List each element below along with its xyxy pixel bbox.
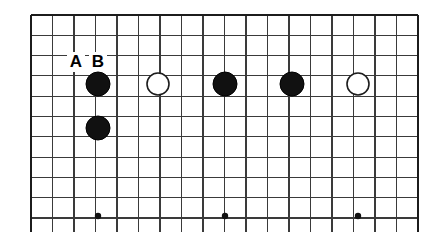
stone-white — [347, 73, 369, 95]
figure-root: AB — [0, 0, 442, 239]
stone-black — [86, 116, 110, 140]
star-point — [222, 213, 228, 219]
stone-black — [280, 72, 304, 96]
stones — [86, 72, 369, 140]
go-board-figure: AB — [0, 0, 442, 239]
star-point — [95, 213, 101, 219]
go-board-canvas: AB — [0, 0, 442, 239]
point-label: B — [92, 52, 104, 71]
stone-black — [86, 72, 110, 96]
point-label: A — [70, 52, 82, 71]
star-point — [355, 213, 361, 219]
stone-white — [147, 73, 169, 95]
stone-black — [213, 72, 237, 96]
